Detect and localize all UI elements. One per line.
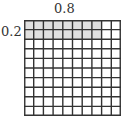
hundred-square-grid bbox=[24, 20, 121, 116]
row-fraction-label: 0.2 bbox=[1, 25, 22, 39]
column-fraction-label: 0.8 bbox=[54, 2, 75, 16]
grid-drawing bbox=[24, 20, 121, 116]
